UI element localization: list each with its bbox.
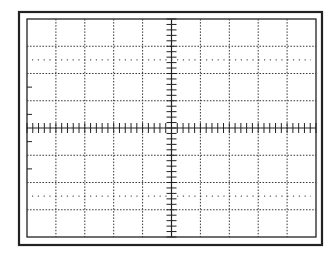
oscilloscope-graticule xyxy=(0,0,334,257)
